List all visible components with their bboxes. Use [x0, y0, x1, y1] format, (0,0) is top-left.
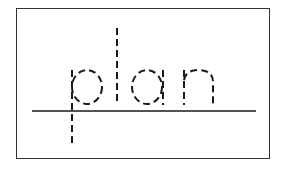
letter-n	[184, 70, 213, 105]
letter-p	[72, 70, 102, 146]
letter-a	[132, 70, 163, 105]
tracing-word-plan	[0, 0, 288, 169]
